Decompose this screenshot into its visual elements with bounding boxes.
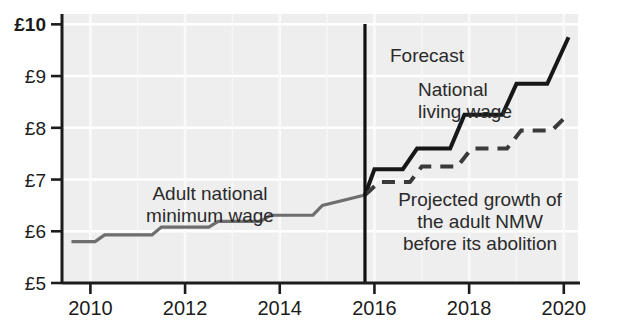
y-axis-tick-label: £8: [25, 118, 46, 139]
x-axis-ticks-group: 201020122014201620182020: [68, 283, 586, 319]
annotation-line: minimum wage: [146, 205, 274, 226]
x-axis-tick-label: 2014: [258, 297, 303, 319]
annotation-line: Forecast: [390, 45, 465, 66]
y-axis-tick-label: £6: [25, 221, 46, 242]
x-axis-tick-label: 2010: [68, 297, 113, 319]
y-axis-ticks-group: £10£9£8£7£6£5: [14, 14, 62, 294]
chart-container: £10£9£8£7£6£5 201020122014201620182020 A…: [0, 0, 622, 330]
chart-annotation-projected-label: Projected growth ofthe adult NMWbefore i…: [398, 189, 562, 254]
y-axis-tick-label: £9: [25, 66, 46, 87]
wage-line-chart: £10£9£8£7£6£5 201020122014201620182020 A…: [0, 0, 622, 330]
annotation-line: Projected growth of: [398, 189, 562, 210]
annotation-line: living wage: [418, 101, 512, 122]
annotation-line: Adult national: [152, 183, 267, 204]
y-axis-tick-label: £7: [25, 170, 46, 191]
x-axis-tick-label: 2020: [542, 297, 587, 319]
y-axis-tick-label: £5: [25, 273, 46, 294]
x-axis-tick-label: 2016: [352, 297, 397, 319]
y-axis-tick-label: £10: [14, 14, 46, 35]
x-axis-tick-label: 2012: [163, 297, 208, 319]
x-axis-tick-label: 2018: [447, 297, 492, 319]
chart-annotation-nmw-label: Adult nationalminimum wage: [146, 183, 274, 226]
chart-annotation-forecast-label: Forecast: [390, 45, 465, 66]
annotation-line: before its abolition: [403, 233, 557, 254]
annotation-line: National: [418, 79, 488, 100]
annotation-line: the adult NMW: [417, 211, 543, 232]
